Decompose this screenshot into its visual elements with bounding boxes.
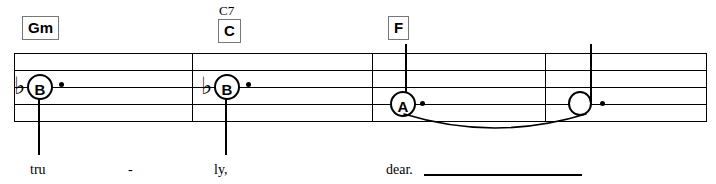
augmentation-dot-1 (59, 82, 64, 87)
melisma-line (424, 174, 582, 176)
barline-2 (372, 53, 373, 122)
lyric-syllable-dear: dear. (386, 163, 413, 177)
lyric-syllable-tru: tru (30, 163, 46, 177)
notehead-letter-1[interactable]: B (27, 74, 53, 100)
staff-line-1 (14, 53, 707, 54)
staff-line-3 (14, 87, 707, 88)
lyric-hyphen: - (128, 163, 133, 177)
chord-symbol-gm[interactable]: Gm (22, 16, 59, 40)
note-stem-4 (590, 44, 592, 102)
chord-label-c: C (224, 22, 235, 39)
tie-slur (400, 112, 590, 138)
flat-icon-2: ♭ (201, 74, 212, 98)
augmentation-dot-3 (420, 101, 425, 106)
staff-line-5 (14, 121, 707, 122)
chord-label-gm: Gm (28, 19, 53, 36)
notehead-open-4[interactable] (568, 91, 592, 116)
chord-symbol-f[interactable]: F (388, 16, 409, 40)
augmentation-dot-4 (600, 101, 605, 106)
tie-curve-icon (400, 112, 590, 138)
chord-superscript-c7: C7 (219, 4, 234, 17)
music-notation-sheet: Gm C7 C F ♭ B ♭ B A tru - ly, (0, 0, 716, 184)
chord-label-f: F (394, 19, 403, 36)
flat-icon-1: ♭ (14, 74, 25, 98)
lyric-syllable-ly: ly, (214, 163, 227, 177)
augmentation-dot-2 (246, 82, 251, 87)
notehead-letter-2[interactable]: B (214, 74, 240, 100)
barline-3 (545, 53, 546, 122)
staff-line-2 (14, 70, 707, 71)
chord-symbol-c[interactable]: C (218, 19, 241, 43)
barline-1 (192, 53, 193, 122)
staff-right-edge (706, 53, 707, 122)
notehead-letter-3[interactable]: A (390, 91, 416, 117)
